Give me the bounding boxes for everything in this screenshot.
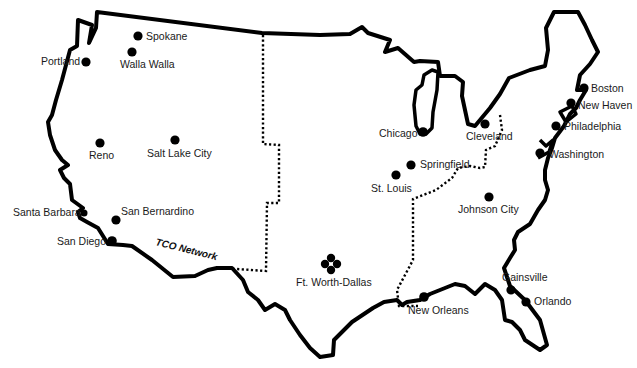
city-label-portland: Portland xyxy=(41,55,80,67)
city-dot-reno[interactable] xyxy=(95,138,104,147)
city-label-st-louis: St. Louis xyxy=(371,182,412,194)
city-dot-ft-worth-dallas[interactable] xyxy=(321,254,341,274)
city-label-gainsville: Gainsville xyxy=(502,271,548,283)
lake-michigan xyxy=(414,70,438,134)
city-label-new-haven: New Haven xyxy=(578,99,632,111)
network-label: TCO Network xyxy=(155,236,220,262)
city-dot-springfield[interactable] xyxy=(406,160,415,169)
city-dot-new-orleans[interactable] xyxy=(419,292,429,302)
city-label-reno: Reno xyxy=(89,149,114,161)
city-label-ft-worth-dallas: Ft. Worth-Dallas xyxy=(296,276,372,288)
city-label-johnson-city: Johnson City xyxy=(458,203,519,215)
network-boundary-west xyxy=(222,35,279,271)
city-labels: Spokane Walla Walla Portland Reno Salt L… xyxy=(13,30,632,316)
city-label-san-diego: San Diego xyxy=(57,235,106,247)
city-dot-johnson-city[interactable] xyxy=(484,192,493,201)
city-dot-orlando[interactable] xyxy=(521,297,530,306)
city-dot-spokane[interactable] xyxy=(133,31,142,40)
city-dot-san-bernardino[interactable] xyxy=(111,215,120,224)
city-dot-st-louis[interactable] xyxy=(391,170,400,179)
us-network-map: Spokane Walla Walla Portland Reno Salt L… xyxy=(0,0,637,368)
city-label-salt-lake-city: Salt Lake City xyxy=(147,147,213,159)
city-label-springfield: Springfield xyxy=(420,158,470,170)
city-label-washington: Washington xyxy=(549,148,604,160)
city-label-santa-barbara: Santa Barbara xyxy=(13,206,81,218)
city-label-new-orleans: New Orleans xyxy=(408,304,469,316)
city-dot-cleveland[interactable] xyxy=(480,119,489,128)
city-label-philadelphia: Philadelphia xyxy=(564,120,621,132)
city-dot-santa-barbara[interactable] xyxy=(81,210,88,217)
city-dot-gainsville[interactable] xyxy=(506,285,515,294)
city-dot-philadelphia[interactable] xyxy=(551,121,560,130)
city-label-chicago: Chicago xyxy=(379,127,418,139)
city-label-spokane: Spokane xyxy=(146,30,188,42)
city-dot-chicago[interactable] xyxy=(418,127,428,137)
city-dot-salt-lake-city[interactable] xyxy=(170,135,179,144)
city-dot-walla-walla[interactable] xyxy=(127,47,136,56)
city-dot-boston[interactable] xyxy=(579,83,588,92)
city-label-walla-walla: Walla Walla xyxy=(120,58,175,70)
city-dot-washington[interactable] xyxy=(535,148,544,157)
city-label-orlando: Orlando xyxy=(534,295,572,307)
city-label-boston: Boston xyxy=(591,82,624,94)
city-label-san-bernardino: San Bernardino xyxy=(121,205,194,217)
city-label-cleveland: Cleveland xyxy=(466,130,513,142)
city-dot-portland[interactable] xyxy=(81,57,90,66)
city-dot-new-haven[interactable] xyxy=(566,98,575,107)
city-dot-san-diego[interactable] xyxy=(107,236,117,246)
